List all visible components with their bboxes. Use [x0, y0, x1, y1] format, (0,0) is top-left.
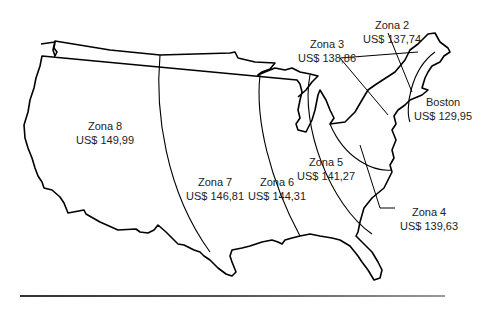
zone-2-label: Zona 2US$ 137,74 [363, 18, 421, 46]
us-zone-map [0, 0, 484, 313]
zone-4-label: Zona 4US$ 139,63 [400, 205, 458, 233]
zone-boundary-8-7 [159, 55, 210, 252]
zone-6-label: Zona 6US$ 144,31 [248, 175, 306, 203]
zone-8-label: Zona 8US$ 149,99 [76, 119, 134, 147]
boston-label: BostonUS$ 129,95 [414, 95, 472, 123]
zone-7-label: Zona 7US$ 146,81 [186, 175, 244, 203]
zone-boundary-7-6 [259, 75, 300, 236]
bottom-rule [20, 295, 445, 297]
us-outline [24, 33, 450, 280]
zone-3-label: Zona 3US$ 138,86 [298, 37, 356, 65]
